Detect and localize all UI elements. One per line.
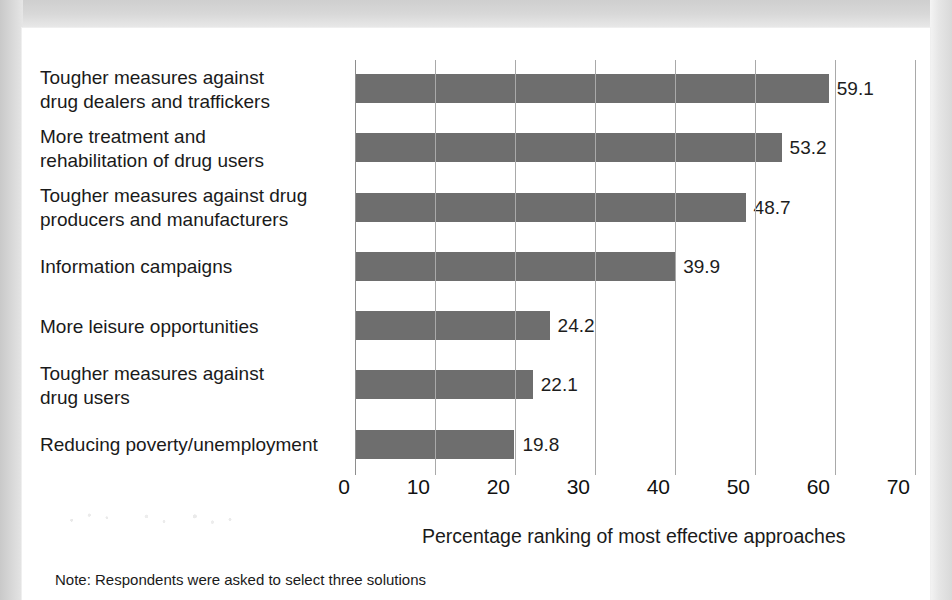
category-label: Tougher measures againstdrug users [40,356,356,415]
bar-value-label: 59.1 [830,74,874,103]
bar-value-label: 53.2 [783,133,827,162]
x-axis-title: Percentage ranking of most effective app… [422,525,845,548]
bar-row: 19.8 [355,416,917,475]
category-label: Tougher measures againstdrug dealers and… [40,60,356,119]
bar-value-label: 19.8 [515,430,559,459]
scan-artifact [32,506,252,532]
x-tick-label: 40 [647,475,675,499]
x-tick-label: 0 [338,475,355,499]
category-label-line: drug dealers and traffickers [40,90,356,114]
category-label: More treatment andrehabilitation of drug… [40,119,356,178]
page-right-margin [930,0,952,600]
category-label-line: Information campaigns [40,255,356,279]
bar [356,370,533,399]
bar-value-label: 48.7 [747,193,791,222]
bar-row: 48.7 [355,179,917,238]
gridline-30 [595,60,596,475]
x-tick-label: 70 [887,475,915,499]
bar-chart: Tougher measures againstdrug dealers and… [22,28,930,600]
bar-row: 53.2 [355,119,917,178]
bar-row: 59.1 [355,60,917,119]
chart-page: Tougher measures againstdrug dealers and… [0,0,952,600]
value-axis-line [355,60,356,475]
bar-value-label: 39.9 [676,252,720,281]
category-label-line: Tougher measures against [40,66,356,90]
category-label-line: Tougher measures against drug [40,184,356,208]
category-label-line: Tougher measures against [40,362,356,386]
gridline-50 [755,60,756,475]
gridline-70 [915,60,916,475]
category-label-line: Reducing poverty/unemployment [40,433,356,457]
gridline-60 [835,60,836,475]
x-tick-label: 50 [727,475,755,499]
category-label: More leisure opportunities [40,297,356,356]
x-axis-ticks: 010203040506070 [355,475,917,509]
x-tick-label: 30 [567,475,595,499]
category-label-line: More leisure opportunities [40,315,356,339]
bar-row: 39.9 [355,238,917,297]
bar [356,311,550,340]
category-label-line: producers and manufacturers [40,208,356,232]
gridline-20 [515,60,516,475]
plot-area: 59.153.248.739.924.222.119.8 [355,60,917,475]
category-label-line: More treatment and [40,125,356,149]
category-axis-labels: Tougher measures againstdrug dealers and… [40,60,356,475]
category-label: Information campaigns [40,238,356,297]
x-tick-label: 60 [807,475,835,499]
x-tick-label: 20 [487,475,515,499]
bar [356,193,746,222]
bar-row: 24.2 [355,297,917,356]
bar-rows: 59.153.248.739.924.222.119.8 [355,60,917,475]
bar [356,133,782,162]
category-label: Tougher measures against drugproducers a… [40,179,356,238]
bar [356,74,829,103]
bar-value-label: 24.2 [551,311,595,340]
page-top-margin [0,0,952,28]
page-left-margin [0,0,23,600]
category-label-line: drug users [40,386,356,410]
chart-note: Note: Respondents were asked to select t… [55,571,426,588]
category-label-line: rehabilitation of drug users [40,149,356,173]
bar-value-label: 22.1 [534,370,578,399]
gridline-40 [675,60,676,475]
category-label: Reducing poverty/unemployment [40,416,356,475]
gridline-10 [435,60,436,475]
x-tick-label: 10 [407,475,435,499]
bar-row: 22.1 [355,356,917,415]
